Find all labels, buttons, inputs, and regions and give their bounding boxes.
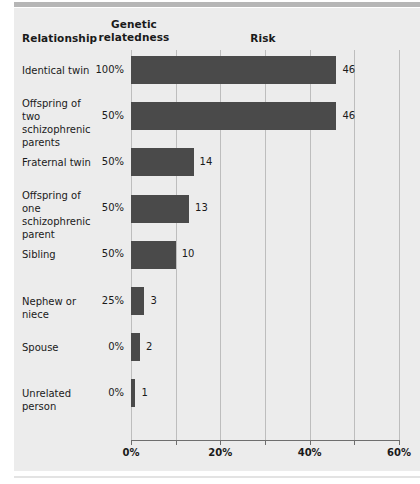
row-label-line: Identical twin [22,64,100,77]
row-label: Identical twin [22,64,100,77]
tick-30 [265,440,266,445]
row-label: Unrelated person [22,387,100,413]
row-label-line: Offspring of one [22,189,100,215]
bar-value-label: 14 [200,156,213,167]
row-label: Sibling [22,248,100,261]
tick-label-20: 20% [208,447,232,458]
bar-value-label: 13 [195,202,208,213]
row-label: Fraternal twin [22,156,100,169]
tick-10 [176,440,177,445]
tick-50 [354,440,355,445]
header-genetic-line2: relatedness [98,31,170,44]
row-label-line: Offspring of two [22,97,100,123]
row-label: Offspring of twoschizophrenicparents [22,97,100,149]
tick-60 [399,440,400,445]
row-label: Spouse [22,341,100,354]
row-label-line: Sibling [22,248,100,261]
row-label-line: Unrelated person [22,387,100,413]
row-label-line: Spouse [22,341,100,354]
tick-label-60: 60% [387,447,411,458]
row-genetic-relatedness: 50% [90,156,124,167]
row-genetic-relatedness: 50% [90,110,124,121]
row-label-line: schizophrenic [22,215,100,228]
tick-label-40: 40% [298,447,322,458]
bar-value-label: 3 [150,295,156,306]
row-label: Nephew or niece [22,295,100,321]
header-genetic-line1: Genetic [98,18,170,31]
top-gray-band [14,2,420,7]
bar-value-label: 10 [182,248,195,259]
bar-value-label: 1 [141,387,147,398]
bar [131,195,189,223]
row-label-line: parent [22,228,100,241]
row-genetic-relatedness: 0% [90,387,124,398]
row-label-line: Fraternal twin [22,156,100,169]
bottom-separator [14,476,420,478]
bar [131,148,194,176]
row-label-line: Nephew or niece [22,295,100,321]
bar [131,241,176,269]
header-genetic-relatedness: Genetic relatedness [98,18,170,44]
row-label-line: schizophrenic [22,123,100,136]
row-label-line: parents [22,136,100,149]
bar [131,56,336,84]
header-relationship: Relationship [22,32,97,44]
bar-value-label: 46 [342,64,355,75]
gridline-60 [399,50,400,440]
tick-0 [131,440,132,445]
row-genetic-relatedness: 50% [90,202,124,213]
bar [131,333,140,361]
row-genetic-relatedness: 0% [90,341,124,352]
bar-value-label: 46 [342,110,355,121]
tick-label-0: 0% [123,447,140,458]
bar [131,102,336,130]
bar [131,379,135,407]
row-genetic-relatedness: 25% [90,295,124,306]
tick-40 [310,440,311,445]
gridline-50 [354,50,355,440]
bar-value-label: 2 [146,341,152,352]
tick-20 [220,440,221,445]
header-risk: Risk [228,32,298,44]
row-genetic-relatedness: 100% [90,64,124,75]
row-label: Offspring of oneschizophrenicparent [22,189,100,241]
bar [131,287,144,315]
chart-page: Relationship Genetic relatedness Risk 0%… [0,0,420,484]
row-genetic-relatedness: 50% [90,248,124,259]
